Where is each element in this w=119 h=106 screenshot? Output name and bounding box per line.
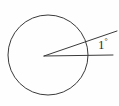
lower-ray-line xyxy=(44,55,113,56)
geometry-figure: 1° xyxy=(0,0,119,106)
angle-measure-label: 1° xyxy=(98,38,108,51)
degree-symbol-icon: ° xyxy=(105,37,108,46)
diagram-canvas xyxy=(0,0,119,106)
